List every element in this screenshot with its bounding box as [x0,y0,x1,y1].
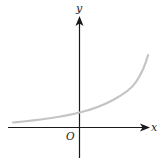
exponential-curve [13,55,148,123]
y-axis-label: y [75,2,83,15]
x-axis-label: x [151,121,158,134]
function-graph: y x O [0,0,164,164]
origin-label: O [66,130,75,142]
